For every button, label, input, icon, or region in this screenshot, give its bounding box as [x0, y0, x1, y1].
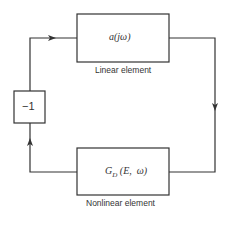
connector-nonlinear-to-gain: [30, 123, 77, 172]
linear-element-caption: Linear element: [95, 65, 151, 75]
connector-gain-to-linear: [30, 38, 77, 91]
nonlinear-element-expression: GD (E, ω): [105, 165, 147, 179]
linear-element-expression: a(jω): [109, 31, 131, 42]
expression-rest: (E, ω): [117, 165, 147, 176]
nonlinear-element-caption: Nonlinear element: [86, 198, 155, 208]
gain-expression: −1: [22, 100, 35, 112]
connector-linear-to-nonlinear: [169, 38, 215, 172]
